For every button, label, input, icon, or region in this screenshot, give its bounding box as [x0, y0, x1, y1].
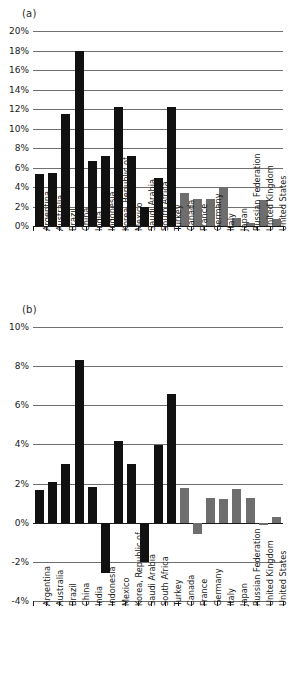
panel-a-label: (a) — [22, 8, 37, 19]
bar — [154, 445, 163, 522]
bar — [75, 51, 84, 227]
y-axis-tick-label: 20% — [9, 27, 29, 36]
category-label: Turkey — [174, 579, 182, 606]
y-axis-tick-label: 2% — [15, 202, 29, 211]
plot-area-b: -4%-2%0%2%4%6%8%10% — [33, 327, 283, 601]
category-label: United Kingdom — [266, 540, 274, 606]
category-label: United Kingdom — [266, 165, 274, 231]
y-axis-tick-label: 4% — [15, 440, 29, 449]
category-label: Australia — [56, 570, 64, 606]
category-label: Korea, Republic of — [135, 532, 143, 606]
category-label: South Africa — [161, 556, 169, 606]
category-label: Germany — [214, 568, 222, 606]
chart-panel-a: (a) 0%2%4%6%8%10%12%14%16%18%20% Argenti… — [0, 0, 289, 350]
category-label: Canada — [187, 575, 195, 606]
bar — [180, 488, 189, 522]
bar — [114, 441, 123, 522]
y-axis-tick-label: 8% — [15, 362, 29, 371]
category-label: Japan — [240, 583, 248, 606]
y-axis-tick-label: -2% — [11, 557, 29, 566]
y-axis-tick-label: 6% — [15, 163, 29, 172]
category-label: France — [200, 204, 208, 231]
y-axis-tick-label: 10% — [9, 124, 29, 133]
y-axis-tick-label: -4% — [11, 597, 29, 606]
category-label: United States — [279, 176, 287, 231]
panel-b-label: (b) — [22, 304, 37, 315]
category-label: Argentina — [43, 191, 51, 231]
category-label: India — [95, 211, 103, 231]
category-label: France — [200, 579, 208, 606]
category-label: Turkey — [174, 204, 182, 231]
bar — [167, 394, 176, 523]
gridline: 16% — [33, 70, 283, 71]
gridline: 18% — [33, 51, 283, 52]
category-label: Russian Federation — [253, 153, 261, 231]
category-label: Russian Federation — [253, 528, 261, 606]
bar — [259, 523, 268, 525]
category-label: China — [82, 208, 90, 231]
gridline: 10% — [33, 129, 283, 130]
y-axis-tick-label: 14% — [9, 85, 29, 94]
gridline: 6% — [33, 168, 283, 169]
gridline: 14% — [33, 90, 283, 91]
bar — [272, 517, 281, 523]
category-label: Germany — [214, 193, 222, 231]
category-label: South Africa — [161, 181, 169, 231]
y-axis-tick-label: 16% — [9, 66, 29, 75]
category-label: Japan — [240, 208, 248, 231]
y-axis-tick-label: 4% — [15, 183, 29, 192]
category-label: United States — [279, 551, 287, 606]
category-label: Australia — [56, 195, 64, 231]
bar — [88, 487, 97, 522]
category-label: Italy — [227, 588, 235, 606]
y-axis-tick-label: 6% — [15, 401, 29, 410]
gridline: 12% — [33, 109, 283, 110]
category-label: Brazil — [69, 208, 77, 231]
y-axis-tick-label: 0% — [15, 518, 29, 527]
gridline: 20% — [33, 31, 283, 32]
category-label: Indonesia — [108, 191, 116, 231]
gridline: 8% — [33, 366, 283, 367]
bar — [48, 482, 57, 523]
bar — [61, 464, 70, 523]
bar — [75, 360, 84, 522]
gridline: 10% — [33, 327, 283, 328]
category-label: Saudi Arabia — [148, 179, 156, 231]
gridline: 0% — [33, 523, 283, 524]
category-label: Argentina — [43, 566, 51, 606]
bar — [219, 499, 228, 522]
y-axis-tick-label: 18% — [9, 46, 29, 55]
category-label: Indonesia — [108, 566, 116, 606]
category-label: China — [82, 583, 90, 606]
axis-tick — [33, 601, 34, 606]
bar — [193, 523, 202, 535]
category-label: Mexico — [135, 202, 143, 231]
category-label: Brazil — [69, 583, 77, 606]
category-label: Saudi Arabia — [148, 554, 156, 606]
category-label: India — [95, 586, 103, 606]
category-label: Mexico — [122, 577, 130, 606]
category-label: Italy — [227, 213, 235, 231]
bar — [35, 490, 44, 522]
gridline: 8% — [33, 148, 283, 149]
bar — [246, 498, 255, 522]
y-axis-tick-label: 0% — [15, 222, 29, 231]
bar — [101, 523, 110, 573]
category-label: Korea, Republic of — [122, 157, 130, 231]
category-label: Canada — [187, 200, 195, 231]
bar — [127, 464, 136, 523]
axis-tick — [33, 226, 34, 231]
y-axis-tick-label: 2% — [15, 479, 29, 488]
gridline: -2% — [33, 562, 283, 563]
bar — [206, 498, 215, 522]
gridline: 6% — [33, 405, 283, 406]
plot-area-a: 0%2%4%6%8%10%12%14%16%18%20% — [33, 31, 283, 226]
bar — [232, 489, 241, 522]
y-axis-tick-label: 8% — [15, 144, 29, 153]
y-axis-tick-label: 10% — [9, 323, 29, 332]
y-axis-tick-label: 12% — [9, 105, 29, 114]
